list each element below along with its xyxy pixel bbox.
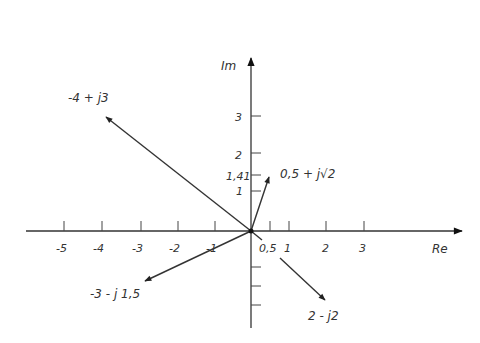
- x-tick-label: 1: [284, 242, 291, 255]
- y-tick-label: 2: [235, 149, 242, 162]
- phasor-arrow: [145, 231, 251, 281]
- origin-point: [249, 229, 254, 234]
- phasor-label: 2 - j2: [308, 309, 339, 323]
- y-axis-ticks: [251, 116, 261, 305]
- phasor-label: -4 + j3: [68, 91, 109, 105]
- x-tick-label: -4: [93, 242, 104, 255]
- y-tick-label: 1,41: [226, 170, 251, 183]
- x-tick-label: -2: [169, 242, 180, 255]
- x-tick-label: 2: [322, 242, 329, 255]
- phasor-arrow: [251, 177, 269, 231]
- x-axis-ticks: [64, 221, 364, 231]
- phasor-diagram: -5 -4 -3 -2 -1 0,5 1 2 3 3 2 1,41 1 Im R…: [0, 0, 480, 343]
- y-tick-label: 1: [236, 185, 243, 198]
- phasor-label: 0,5 + j√2: [280, 167, 335, 181]
- x-axis-label: Re: [432, 242, 448, 256]
- x-tick-label: 3: [359, 242, 366, 255]
- phasor-label: -3 - j 1,5: [90, 287, 140, 301]
- x-tick-label: -3: [132, 242, 143, 255]
- phasor-arrow: [280, 258, 325, 300]
- x-tick-label: -5: [56, 242, 67, 255]
- y-tick-label: 3: [235, 111, 242, 124]
- x-tick-label: 0,5: [259, 242, 277, 255]
- y-axis-label: Im: [221, 59, 236, 73]
